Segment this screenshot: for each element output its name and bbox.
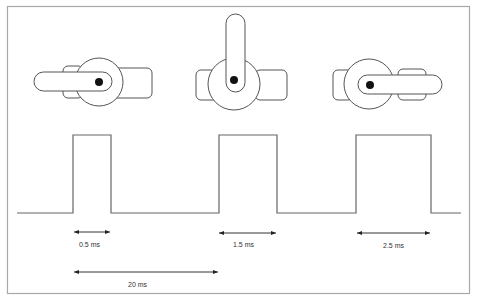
servo-shaft-dot: [230, 76, 238, 84]
servo-shaft-dot: [95, 78, 103, 86]
pulse-0-5ms-label: 0.5 ms: [79, 241, 101, 248]
pulse-1-5ms-label: 1.5 ms: [233, 241, 255, 248]
period-20ms-label: 20 ms: [128, 281, 148, 288]
servo-pwm-diagram: 0.5 ms 1.5 ms 2.5 ms 20 ms: [0, 0, 477, 300]
pulse-2-5ms-label: 2.5 ms: [383, 242, 405, 249]
servo-shaft-dot: [366, 81, 374, 89]
